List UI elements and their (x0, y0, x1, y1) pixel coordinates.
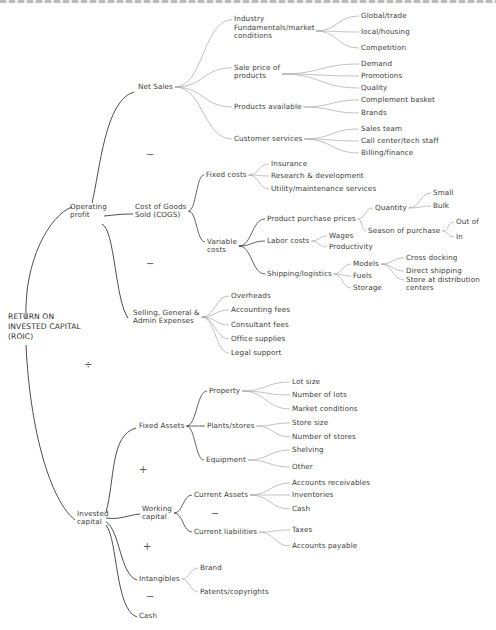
node-equipment: Equipment (206, 456, 246, 464)
divide-operator: ÷ (84, 360, 92, 370)
node-overheads: Overheads (231, 292, 271, 300)
node-cogs: Cost of GoodsSold (COGS) (135, 203, 186, 220)
node-promotions: Promotions (361, 72, 402, 80)
node-lot-size: Lot size (292, 378, 320, 386)
node-cash: Cash (139, 612, 157, 620)
node-cash-ca: Cash (292, 505, 310, 513)
node-accounting: Accounting fees (231, 306, 290, 314)
node-wages: Wages (329, 232, 353, 240)
node-sales-team: Sales team (361, 125, 402, 133)
node-quality: Quality (361, 84, 387, 92)
node-shipping: Shipping/logistics (267, 270, 332, 278)
node-inventories: Inventories (292, 491, 333, 499)
node-competition: Competition (361, 44, 406, 52)
node-market-cond: Market conditions (292, 405, 358, 413)
node-working: Workingcapital (142, 505, 172, 522)
minus-operator: − (146, 150, 154, 160)
node-num-stores: Number of stores (292, 433, 356, 441)
node-current-assets: Current Assets (194, 491, 248, 499)
node-direct-shipping: Direct shipping (406, 267, 462, 275)
node-patents: Patents/copyrights (200, 588, 269, 596)
node-utility: Utility/maintenance services (271, 185, 376, 193)
node-out-of: Out of (456, 218, 479, 226)
node-net-sales: Net Sales (138, 83, 173, 91)
node-invested: Investedcapital (77, 510, 109, 527)
node-shelving: Shelving (292, 446, 324, 454)
node-current-liab: Current liabilities (194, 528, 257, 536)
node-demand: Demand (361, 60, 392, 68)
node-small: Small (433, 189, 453, 197)
plus-operator: + (143, 542, 151, 552)
node-labor: Labor costs (267, 237, 309, 245)
node-products-avail: Products available (234, 103, 302, 111)
node-in: In (456, 233, 463, 241)
roic-tree-diagram: RETURN ONINVESTED CAPITAL(ROIC)Operating… (0, 0, 496, 630)
node-global: Global/trade (361, 12, 407, 20)
node-consultant: Consultant fees (231, 321, 289, 329)
node-product-purchase: Product purchase prices (267, 215, 356, 223)
node-industry: IndustryFundamentals/marketconditions (234, 15, 315, 40)
node-op-profit: Operatingprofit (70, 203, 107, 220)
node-intangibles: Intangibles (139, 575, 180, 583)
node-fixed-costs: Fixed costs (206, 171, 247, 179)
node-fixed-assets: Fixed Assets (139, 422, 185, 430)
node-customer-services: Customer services (234, 135, 302, 143)
node-store-dist: Store at distributioncenters (406, 276, 480, 293)
node-sga: Selling, General &Admin Expenses (133, 309, 200, 326)
node-bulk: Bulk (433, 202, 449, 210)
node-taxes: Taxes (292, 526, 312, 534)
minus-operator: − (146, 259, 154, 269)
node-fuels: Fuels (353, 272, 372, 280)
node-plants: Plants/stores (207, 422, 255, 430)
node-brands: Brands (361, 109, 387, 117)
node-season: Season of purchase (368, 227, 440, 235)
node-acct-pay: Accounts payable (292, 542, 357, 550)
node-office: Office supplies (231, 335, 285, 343)
plus-operator: + (139, 465, 147, 475)
node-brand: Brand (200, 564, 222, 572)
node-storage: Storage (353, 284, 382, 292)
node-store-size: Store size (292, 419, 328, 427)
node-models: Models (353, 260, 379, 268)
node-num-lots: Number of lots (292, 391, 347, 399)
node-variable-costs: Variablecosts (207, 238, 237, 255)
minus-operator: − (146, 592, 154, 602)
node-insurance: Insurance (271, 160, 307, 168)
node-cross-docking: Cross docking (406, 254, 457, 262)
node-productivity: Productivity (329, 243, 373, 251)
node-local: local/housing (361, 28, 410, 36)
node-other: Other (292, 463, 313, 471)
node-property: Property (209, 387, 240, 395)
node-acct-recv: Accounts receivables (292, 479, 370, 487)
node-sale-price: Sale price ofproducts (234, 64, 280, 81)
node-complement: Complement basket (361, 96, 435, 104)
node-call-center: Call center/tech staff (361, 137, 439, 145)
node-quantity: Quantity (375, 204, 407, 212)
minus-operator: − (211, 509, 219, 519)
node-rnd: Research & development (271, 172, 364, 180)
node-roic: RETURN ONINVESTED CAPITAL(ROIC) (8, 312, 81, 342)
node-billing: Billing/finance (361, 149, 413, 157)
node-legal: Legal support (231, 349, 281, 357)
